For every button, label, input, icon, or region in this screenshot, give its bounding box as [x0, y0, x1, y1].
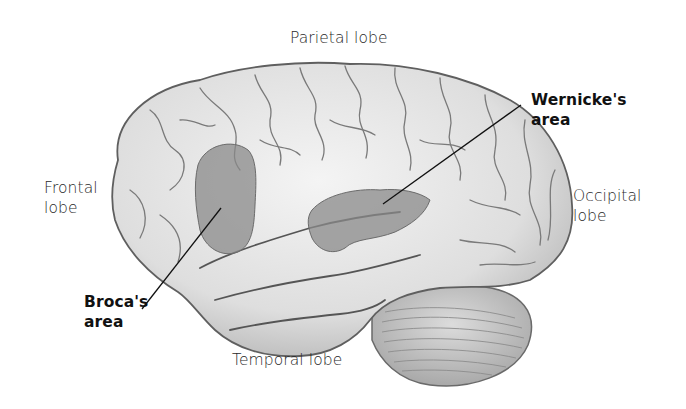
frontal-label-line1: Frontal: [44, 178, 98, 198]
frontal-lobe-label: Frontal lobe: [44, 178, 98, 218]
broca-area-region: [195, 144, 255, 254]
occipital-label-line1: Occipital: [573, 186, 641, 206]
parietal-lobe-label: Parietal lobe: [290, 28, 388, 48]
broca-label-line2: area: [84, 312, 148, 332]
wernicke-label-line2: area: [531, 110, 627, 130]
occipital-label-line2: lobe: [573, 206, 641, 226]
frontal-label-line2: lobe: [44, 198, 98, 218]
occipital-lobe-label: Occipital lobe: [573, 186, 641, 226]
temporal-lobe-label: Temporal lobe: [232, 350, 342, 370]
wernicke-label-line1: Wernicke's: [531, 90, 627, 110]
wernicke-area-label: Wernicke's area: [531, 90, 627, 130]
broca-label-line1: Broca's: [84, 292, 148, 312]
broca-area-label: Broca's area: [84, 292, 148, 332]
